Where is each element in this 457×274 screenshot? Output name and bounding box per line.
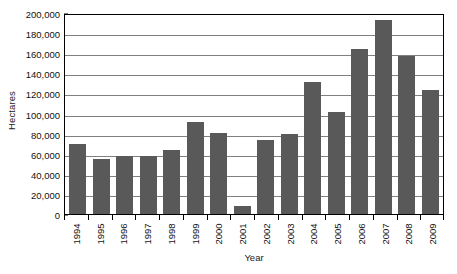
y-axis-tick-label: 200,000 [26, 9, 60, 20]
x-axis-tick-label: 2009 [427, 223, 438, 244]
bar [304, 82, 321, 214]
x-axis-tick-label: 2004 [308, 223, 319, 244]
bar [69, 144, 86, 214]
bar [187, 122, 204, 214]
y-axis-title-label: Hectares [6, 91, 17, 130]
x-axis-tick-label: 2001 [237, 223, 248, 244]
y-axis-tick-label: 100,000 [26, 109, 60, 120]
y-axis-tick-label: 120,000 [26, 89, 60, 100]
x-axis-title: Year [64, 252, 444, 263]
x-axis-tick-label: 1996 [118, 223, 129, 244]
bar [257, 140, 274, 214]
bar [422, 90, 439, 214]
bars-container [65, 15, 443, 214]
x-axis-tick-label: 1994 [70, 223, 81, 244]
bar [116, 156, 133, 214]
x-axis-tick-label: 1997 [142, 223, 153, 244]
y-axis-tick-label: 0 [55, 210, 60, 221]
x-axis-tick-label: 2000 [213, 223, 224, 244]
bar [398, 56, 415, 214]
y-axis-tick-label: 20,000 [31, 189, 60, 200]
y-axis-title: Hectares [0, 0, 22, 220]
y-axis-tick-label: 140,000 [26, 69, 60, 80]
bar [328, 112, 345, 215]
x-axis-tick-labels: 1994199519961997199819992000200120022003… [64, 220, 444, 250]
bar [351, 49, 368, 214]
y-axis-tick-label: 160,000 [26, 49, 60, 60]
x-axis-tick-label: 2006 [355, 223, 366, 244]
y-axis-tick-label: 60,000 [31, 149, 60, 160]
x-axis-tick-label: 2002 [260, 223, 271, 244]
x-axis-tick-label: 2003 [284, 223, 295, 244]
bar [281, 134, 298, 214]
y-axis-tick-label: 180,000 [26, 29, 60, 40]
x-axis-tick-label: 1995 [94, 223, 105, 244]
x-axis-tick-label: 2007 [379, 223, 390, 244]
y-axis-tick-label: 80,000 [31, 129, 60, 140]
y-axis-tick-labels: 020,00040,00060,00080,000100,000120,0001… [20, 14, 64, 215]
bar-chart: Hectares 020,00040,00060,00080,000100,00… [0, 0, 457, 274]
bar [93, 159, 110, 214]
x-axis-tick-label: 2008 [403, 223, 414, 244]
plot-area [64, 14, 444, 215]
bar [140, 156, 157, 214]
x-axis-tick-label: 2005 [332, 223, 343, 244]
bar [210, 133, 227, 214]
bar [375, 20, 392, 214]
bar [234, 206, 251, 214]
x-axis-tick-label: 1999 [189, 223, 200, 244]
x-axis-tick-label: 1998 [165, 223, 176, 244]
bar [163, 150, 180, 214]
y-axis-tick-label: 40,000 [31, 169, 60, 180]
